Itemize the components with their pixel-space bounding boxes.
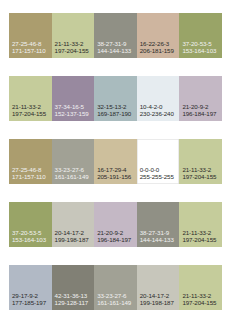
swatch-label: 21-20-9-2196-184-197 [182, 103, 216, 117]
swatch-row: 37-20-53-5153-164-10320-14-17-2199-198-1… [9, 202, 222, 247]
swatch-label: 20-14-17-2199-198-187 [140, 292, 174, 306]
cmyk-value: 37-20-53-5 [182, 40, 216, 47]
cmyk-value: 16-17-29-4 [97, 166, 131, 173]
color-swatch: 33-23-27-6161-161-149 [94, 265, 137, 310]
rgb-value: 144-144-133 [97, 47, 131, 54]
swatch-label: 27-25-46-8171-157-110 [12, 166, 46, 180]
cmyk-value: 32-15-13-2 [97, 103, 131, 110]
rgb-value: 177-185-197 [12, 299, 46, 306]
swatch-label: 21-11-33-2197-204-155 [12, 103, 46, 117]
color-swatch: 21-11-33-2197-204-155 [179, 139, 222, 184]
rgb-value: 199-198-187 [55, 236, 89, 243]
rgb-value: 255-255-255 [140, 173, 174, 180]
color-swatch: 20-14-17-2199-198-187 [52, 202, 95, 247]
cmyk-value: 20-14-17-2 [55, 229, 89, 236]
color-swatch: 21-11-33-2197-204-155 [52, 13, 95, 58]
swatch-label: 21-11-33-2197-204-155 [182, 292, 216, 306]
swatch-label: 33-23-27-6161-161-149 [55, 166, 89, 180]
color-swatch-grid: 27-25-46-8171-157-11021-11-33-2197-204-1… [9, 13, 222, 320]
color-swatch: 10-4-2-0230-236-240 [137, 76, 180, 121]
swatch-label: 16-17-29-4205-191-156 [97, 166, 131, 180]
swatch-label: 21-11-33-2197-204-155 [182, 166, 216, 180]
color-swatch: 20-14-17-2199-198-187 [137, 265, 180, 310]
rgb-value: 197-204-155 [182, 299, 216, 306]
cmyk-value: 20-14-17-2 [140, 292, 174, 299]
swatch-label: 33-23-27-6161-161-149 [97, 292, 131, 306]
color-swatch: 21-11-33-2197-204-155 [179, 202, 222, 247]
swatch-label: 37-34-16-5152-137-159 [55, 103, 89, 117]
rgb-value: 153-164-103 [12, 236, 46, 243]
cmyk-value: 37-20-53-5 [12, 229, 46, 236]
cmyk-value: 27-25-46-8 [12, 40, 46, 47]
swatch-label: 32-15-13-2169-187-190 [97, 103, 131, 117]
rgb-value: 196-184-197 [182, 110, 216, 117]
swatch-label: 38-27-31-9144-144-133 [97, 40, 131, 54]
rgb-value: 197-204-155 [55, 47, 89, 54]
cmyk-value: 21-11-33-2 [55, 40, 89, 47]
cmyk-value: 21-20-9-2 [97, 229, 131, 236]
color-swatch: 21-20-9-2196-184-197 [94, 202, 137, 247]
color-swatch: 27-25-46-8171-157-110 [9, 13, 52, 58]
swatch-label: 37-20-53-5153-164-103 [182, 40, 216, 54]
cmyk-value: 21-20-9-2 [182, 103, 216, 110]
color-swatch: 37-20-53-5153-164-103 [179, 13, 222, 58]
swatch-label: 38-27-31-9144-144-133 [140, 229, 174, 243]
color-swatch: 0-0-0-0255-255-255 [137, 139, 180, 184]
rgb-value: 169-187-190 [97, 110, 131, 117]
rgb-value: 153-164-103 [182, 47, 216, 54]
rgb-value: 161-161-149 [55, 173, 89, 180]
color-swatch: 21-20-9-2196-184-197 [179, 76, 222, 121]
rgb-value: 196-184-197 [97, 236, 131, 243]
rgb-value: 129-128-117 [55, 299, 89, 306]
cmyk-value: 33-23-27-6 [97, 292, 131, 299]
cmyk-value: 29-17-9-2 [12, 292, 46, 299]
cmyk-value: 16-22-26-3 [140, 40, 174, 47]
cmyk-value: 21-11-33-2 [182, 229, 216, 236]
cmyk-value: 37-34-16-5 [55, 103, 89, 110]
rgb-value: 161-161-149 [97, 299, 131, 306]
rgb-value: 171-157-110 [12, 47, 46, 54]
rgb-value: 197-204-155 [182, 173, 216, 180]
cmyk-value: 21-11-33-2 [182, 166, 216, 173]
color-swatch: 38-27-31-9144-144-133 [137, 202, 180, 247]
rgb-value: 205-191-156 [97, 173, 131, 180]
swatch-row: 27-25-46-8171-157-11021-11-33-2197-204-1… [9, 13, 222, 58]
cmyk-value: 21-11-33-2 [182, 292, 216, 299]
swatch-label: 37-20-53-5153-164-103 [12, 229, 46, 243]
color-swatch: 29-17-9-2177-185-197 [9, 265, 52, 310]
swatch-label: 42-31-36-13129-128-117 [55, 292, 89, 306]
cmyk-value: 42-31-36-13 [55, 292, 89, 299]
swatch-row: 27-25-46-8171-157-11033-23-27-6161-161-1… [9, 139, 222, 184]
rgb-value: 199-198-187 [140, 299, 174, 306]
swatch-label: 21-11-33-2197-204-155 [55, 40, 89, 54]
cmyk-value: 38-27-31-9 [97, 40, 131, 47]
color-swatch: 32-15-13-2169-187-190 [94, 76, 137, 121]
swatch-label: 29-17-9-2177-185-197 [12, 292, 46, 306]
cmyk-value: 0-0-0-0 [140, 166, 174, 173]
rgb-value: 206-181-159 [140, 47, 174, 54]
color-swatch: 16-17-29-4205-191-156 [94, 139, 137, 184]
swatch-row: 29-17-9-2177-185-19742-31-36-13129-128-1… [9, 265, 222, 310]
rgb-value: 197-204-155 [182, 236, 216, 243]
cmyk-value: 21-11-33-2 [12, 103, 46, 110]
color-swatch: 27-25-46-8171-157-110 [9, 139, 52, 184]
swatch-label: 16-22-26-3206-181-159 [140, 40, 174, 54]
cmyk-value: 10-4-2-0 [140, 103, 174, 110]
color-swatch: 38-27-31-9144-144-133 [94, 13, 137, 58]
swatch-label: 10-4-2-0230-236-240 [140, 103, 174, 117]
swatch-label: 20-14-17-2199-198-187 [55, 229, 89, 243]
rgb-value: 197-204-155 [12, 110, 46, 117]
color-swatch: 42-31-36-13129-128-117 [52, 265, 95, 310]
color-swatch: 16-22-26-3206-181-159 [137, 13, 180, 58]
swatch-label: 0-0-0-0255-255-255 [140, 166, 174, 180]
swatch-label: 21-20-9-2196-184-197 [97, 229, 131, 243]
rgb-value: 230-236-240 [140, 110, 174, 117]
color-swatch: 37-20-53-5153-164-103 [9, 202, 52, 247]
cmyk-value: 27-25-46-8 [12, 166, 46, 173]
color-swatch: 37-34-16-5152-137-159 [52, 76, 95, 121]
cmyk-value: 33-23-27-6 [55, 166, 89, 173]
swatch-label: 27-25-46-8171-157-110 [12, 40, 46, 54]
swatch-row: 21-11-33-2197-204-15537-34-16-5152-137-1… [9, 76, 222, 121]
color-swatch: 21-11-33-2197-204-155 [9, 76, 52, 121]
swatch-label: 21-11-33-2197-204-155 [182, 229, 216, 243]
